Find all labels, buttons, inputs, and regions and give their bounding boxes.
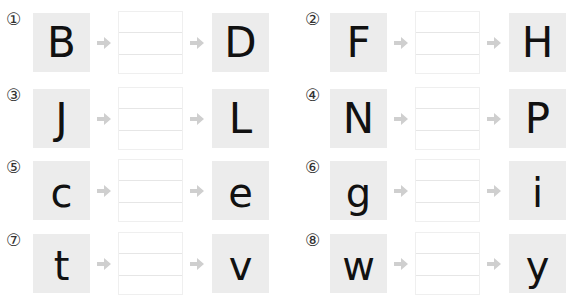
answer-box[interactable] [118,11,183,74]
answer-box[interactable] [118,159,183,222]
arrow-right-icon [394,185,408,197]
arrow-right-icon [190,185,204,197]
exercise-number: ⑥ [305,157,320,177]
arrow-right-icon [97,113,111,125]
exercise-2: ② F H [297,13,567,75]
arrow-right-icon [487,258,501,270]
arrow-right-icon [190,37,204,49]
end-letter-tile: P [509,89,566,148]
exercise-number: ④ [305,85,320,105]
exercise-number: ② [305,9,320,29]
exercise-3: ③ J L [0,89,290,151]
answer-box[interactable] [415,232,480,295]
start-letter-tile: c [33,161,90,220]
start-letter-tile: t [33,234,90,293]
end-letter-tile: v [212,234,269,293]
arrow-right-icon [190,113,204,125]
exercise-number: ⑧ [305,230,320,250]
arrow-right-icon [97,258,111,270]
arrow-right-icon [394,113,408,125]
end-letter-tile: e [212,161,269,220]
arrow-right-icon [487,185,501,197]
start-letter-tile: g [330,161,387,220]
start-letter-tile: w [330,234,387,293]
exercise-number: ③ [6,85,21,105]
arrow-right-icon [97,185,111,197]
exercise-8: ⑧ w y [297,234,567,295]
arrow-right-icon [97,37,111,49]
arrow-right-icon [190,258,204,270]
exercise-number: ⑦ [6,230,21,250]
end-letter-tile: i [509,161,566,220]
arrow-right-icon [394,37,408,49]
exercise-5: ⑤ c e [0,161,290,223]
answer-box[interactable] [415,11,480,74]
answer-box[interactable] [415,159,480,222]
exercise-number: ⑤ [6,157,21,177]
arrow-right-icon [394,258,408,270]
end-letter-tile: H [509,13,566,72]
answer-box[interactable] [118,232,183,295]
exercise-4: ④ N P [297,89,567,151]
answer-box[interactable] [415,87,480,150]
exercise-1: ① B D [0,13,290,75]
exercise-7: ⑦ t v [0,234,290,295]
start-letter-tile: N [330,89,387,148]
arrow-right-icon [487,113,501,125]
end-letter-tile: D [212,13,269,72]
arrow-right-icon [487,37,501,49]
start-letter-tile: J [33,89,90,148]
exercise-6: ⑥ g i [297,161,567,223]
answer-box[interactable] [118,87,183,150]
start-letter-tile: F [330,13,387,72]
start-letter-tile: B [33,13,90,72]
end-letter-tile: L [212,89,269,148]
end-letter-tile: y [509,234,566,293]
exercise-number: ① [6,9,21,29]
